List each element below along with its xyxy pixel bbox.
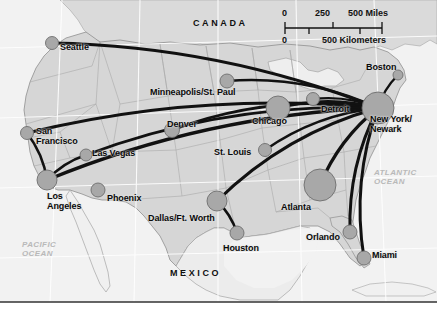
city-marker-phoenix[interactable] [91,183,105,197]
city-label-line: Atlanta [281,203,311,213]
city-label-san-francisco: SanFrancisco [36,127,78,146]
city-label-las-vegas: Las Vegas [92,149,135,159]
city-label-line: Boston [366,63,396,73]
city-marker-seattle[interactable] [46,37,59,50]
city-label-houston: Houston [223,244,259,254]
ocean-label-line: OCEAN [22,249,56,258]
city-marker-los-angeles[interactable] [37,170,57,190]
city-dot-las-vegas[interactable] [80,149,92,161]
city-marker-minneapolis-st-paul[interactable] [220,74,234,88]
city-label-los-angeles: LosAngeles [47,192,81,211]
city-label-denver: Denver [167,120,197,130]
ocean-label-pacific-ocean: PACIFICOCEAN [22,240,56,258]
city-dot-minneapolis-st-paul[interactable] [220,74,234,88]
city-label-line: Las Vegas [92,149,135,159]
ocean-label-line: ATLANTIC [374,168,417,177]
city-label-line: Newark [370,125,412,135]
city-marker-las-vegas[interactable] [80,149,92,161]
scale-miles-zero: 0 [282,8,287,18]
city-label-miami: Miami [372,251,397,261]
city-label-line: Angeles [47,202,81,212]
city-label-line: Minneapolis/St. Paul [150,88,236,98]
city-label-line: Orlando [306,233,340,243]
city-label-detroit: Detroit [321,105,349,115]
city-label-line: St. Louis [214,148,251,158]
city-label-line: Phoenix [107,194,141,204]
country-label-mexico: MEXICO [170,268,221,278]
scale-bar: 0 250 500 Miles 0 500 Kilometers [282,8,394,48]
city-label-minneapolis-st-paul: Minneapolis/St. Paul [150,88,236,98]
city-dot-miami[interactable] [357,251,371,265]
city-marker-san-francisco[interactable] [21,127,34,140]
city-label-phoenix: Phoenix [107,194,141,204]
city-label-orlando: Orlando [306,233,340,243]
city-dot-orlando[interactable] [343,225,357,239]
scale-miles-mid: 250 [315,8,330,18]
scale-km-max: 500 Kilometers [322,35,386,45]
city-marker-dallas-ft-worth[interactable] [207,191,227,211]
city-label-line: Chicago [252,117,287,127]
city-marker-detroit[interactable] [307,93,320,106]
city-dot-atlanta[interactable] [304,169,336,201]
city-label-dallas-ft-worth: Dallas/Ft. Worth [148,214,215,224]
city-dot-san-francisco[interactable] [21,127,34,140]
city-marker-miami[interactable] [357,251,371,265]
ocean-label-line: PACIFIC [22,240,56,249]
scale-bar-graphic [282,21,394,35]
city-dot-los-angeles[interactable] [37,170,57,190]
city-marker-st-louis[interactable] [259,144,272,157]
ocean-label-atlantic-ocean: ATLANTICOCEAN [374,168,417,186]
airline-route-map: 0 250 500 Miles 0 500 Kilometers Seattle… [0,0,437,314]
city-label-chicago: Chicago [252,117,287,127]
city-label-line: Dallas/Ft. Worth [148,214,215,224]
city-label-line: Miami [372,251,397,261]
city-label-st-louis: St. Louis [214,148,251,158]
ocean-label-line: OCEAN [374,177,417,186]
city-label-atlanta: Atlanta [281,203,311,213]
city-label-line: Denver [167,120,197,130]
city-dot-phoenix[interactable] [91,183,105,197]
city-label-boston: Boston [366,63,396,73]
scale-km-zero: 0 [282,35,287,45]
city-dot-seattle[interactable] [46,37,59,50]
city-dot-detroit[interactable] [307,93,320,106]
city-dot-houston[interactable] [230,226,244,240]
city-marker-orlando[interactable] [343,225,357,239]
city-label-line: Seattle [60,43,89,53]
city-marker-houston[interactable] [230,226,244,240]
country-label-canada: CANADA [193,18,248,28]
city-label-line: Francisco [36,137,78,147]
city-label-line: Houston [223,244,259,254]
city-label-new-york-newark: New York/Newark [370,115,412,134]
city-dot-dallas-ft-worth[interactable] [207,191,227,211]
city-dot-st-louis[interactable] [259,144,272,157]
city-marker-atlanta[interactable] [304,169,336,201]
city-label-line: Detroit [321,105,349,115]
scale-miles-max: 500 Miles [348,8,388,18]
city-label-seattle: Seattle [60,43,89,53]
